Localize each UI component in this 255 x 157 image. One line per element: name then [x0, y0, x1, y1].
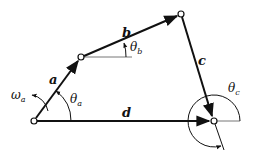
omega-a-arc	[32, 95, 48, 111]
label-c: c	[198, 53, 206, 68]
pivot-D	[211, 118, 217, 124]
theta-a-arc	[56, 91, 71, 121]
pivot-B	[78, 54, 84, 60]
label-theta-a: θa	[70, 92, 82, 108]
label-b: b	[122, 25, 131, 40]
pivot-C	[178, 11, 184, 17]
link-a	[36, 61, 78, 118]
linkage-svg: a b c d ωa θa θb θc	[0, 0, 255, 157]
label-d: d	[122, 105, 131, 120]
pivot-A	[31, 118, 37, 124]
label-theta-c: θc	[228, 81, 240, 97]
label-theta-b: θb	[130, 40, 142, 56]
theta-b-arc	[124, 43, 126, 57]
four-bar-linkage-diagram: a b c d ωa θa θb θc	[0, 0, 255, 157]
label-a: a	[49, 72, 57, 87]
label-omega-a: ωa	[11, 88, 26, 104]
